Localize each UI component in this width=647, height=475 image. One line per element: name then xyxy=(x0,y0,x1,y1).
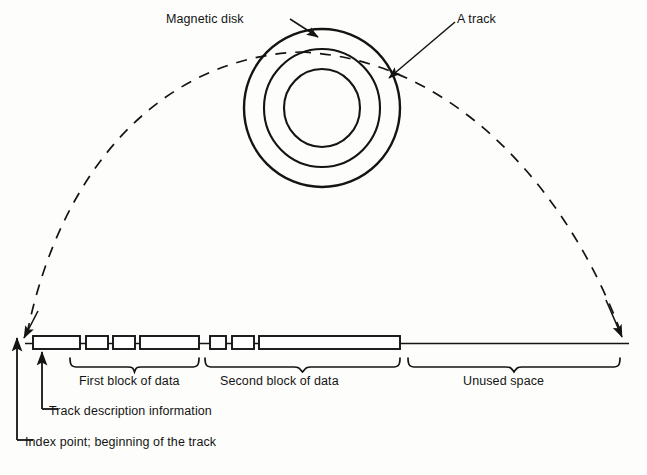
first-block-of-data-label: First block of data xyxy=(79,374,180,388)
index-point-label: Index point; beginning of the track xyxy=(25,435,216,449)
second-block-brace xyxy=(205,358,400,372)
magnetic-disk-rings xyxy=(244,29,400,187)
expansion-arc-right-arrowhead xyxy=(606,300,622,337)
expansion-arc-left-arrowhead xyxy=(24,311,38,338)
track-description-callout-leader xyxy=(42,352,58,409)
first-block-segment-3 xyxy=(140,336,199,349)
first-block-segment-2 xyxy=(113,336,135,349)
disk-outer-edge-ring xyxy=(244,29,400,187)
track-description-block xyxy=(33,336,80,349)
disk-track-outer-ring xyxy=(264,49,380,167)
track-description-information-label: Track description information xyxy=(49,404,212,418)
second-block-segment-3 xyxy=(259,336,400,349)
section-braces xyxy=(70,358,620,372)
a-track-label: A track xyxy=(457,12,496,26)
second-block-segment-1 xyxy=(210,336,226,349)
expansion-arc-left xyxy=(27,52,300,334)
disk-track-inner-ring xyxy=(284,69,360,147)
track-blocks xyxy=(33,336,400,349)
index-point-callout-leader xyxy=(17,338,33,440)
first-block-brace xyxy=(70,358,199,372)
a-track-leader-arrow xyxy=(389,22,455,78)
first-block-segment-1 xyxy=(86,336,108,349)
second-block-of-data-label: Second block of data xyxy=(220,374,339,388)
unused-space-brace xyxy=(408,358,620,372)
second-block-segment-2 xyxy=(232,336,254,349)
expansion-arc-right xyxy=(300,52,620,330)
unused-space-label: Unused space xyxy=(463,374,544,388)
magnetic-disk-label: Magnetic disk xyxy=(166,12,244,26)
figure-canvas: Magnetic disk A track First block of dat… xyxy=(0,0,647,475)
